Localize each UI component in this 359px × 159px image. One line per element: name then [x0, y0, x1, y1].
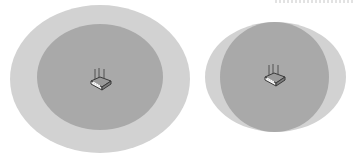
router-icon	[262, 63, 288, 93]
router-icon	[88, 67, 114, 97]
cropped-caption-strip	[275, 0, 355, 3]
